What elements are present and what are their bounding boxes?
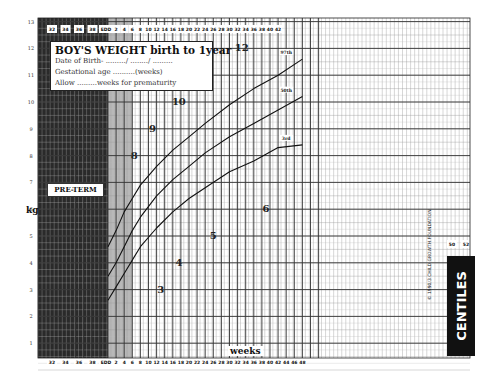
x-tick-label: 28 (218, 27, 224, 32)
x-tick-label: 40 (267, 27, 273, 32)
x-tick-label: 42 (275, 360, 281, 365)
x-tick-label: 2 (115, 360, 118, 365)
prematurity-allowance-field: Allow .........weeks for prematurity (55, 78, 208, 89)
y-tick-label: 9 (29, 126, 32, 132)
x-tick-label: 22 (194, 27, 200, 32)
x-tick-label: 40 (267, 360, 273, 365)
month-marker: 12 (235, 42, 249, 53)
centiles-label: CENTILES (454, 271, 469, 341)
x-tick-preterm: 32 (49, 360, 55, 365)
month-marker: 4 (175, 257, 182, 268)
x-tick-label: 34 (243, 27, 249, 32)
x-tick-label: 8 (139, 360, 142, 365)
chart-title: BOY'S WEIGHT birth to 1year (55, 44, 208, 56)
x-tick-label: 24 (202, 27, 208, 32)
x-tick-label: 36 (251, 27, 257, 32)
x-tick-label: 26 (210, 27, 216, 32)
x-tick-label: 38 (259, 27, 265, 32)
x-tick-label: 20 (186, 27, 192, 32)
y-tick-label: 2 (29, 313, 32, 319)
y-tick-label: 10 (28, 99, 34, 105)
preterm-label: PRE-TERM (47, 183, 104, 197)
x-tick-label: 24 (202, 360, 208, 365)
x-tick-label: 48 (299, 360, 305, 365)
x-tick-label: 10 (145, 360, 151, 365)
month-marker: 5 (210, 230, 217, 241)
x-tick-label: 46 (291, 360, 297, 365)
y-tick-label: 3 (29, 287, 32, 293)
chart-title-box: BOY'S WEIGHT birth to 1year Date of Birt… (50, 41, 213, 91)
x-tick-label: 18 (178, 27, 184, 32)
x-tick-label: 50 (449, 242, 455, 247)
x-tick-label: 36 (251, 360, 257, 365)
month-marker: 6 (262, 203, 269, 214)
y-tick-label: 12 (28, 45, 34, 51)
x-tick-label: 4 (123, 360, 126, 365)
x-tick-preterm: 32 (49, 27, 55, 32)
x-tick-label: 52 (463, 242, 469, 247)
x-tick-label: 12 (153, 27, 159, 32)
x-tick-label: 14 (162, 27, 168, 32)
gestational-age-field: Gestational age ..........(weeks) (55, 67, 208, 78)
x-tick-label: 4 (123, 27, 126, 32)
x-tick-label: 38 (259, 360, 265, 365)
centile-label: 50th (280, 88, 292, 93)
x-tick-label: 42 (275, 27, 281, 32)
x-tick-label: 16 (170, 27, 176, 32)
x-tick-preterm: 36 (76, 27, 82, 32)
y-tick-label: 5 (29, 233, 32, 239)
x-tick-label: 10 (145, 27, 151, 32)
y-tick-label: 8 (29, 153, 32, 159)
y-tick-label: 11 (28, 72, 34, 78)
x-tick-label: 28 (218, 360, 224, 365)
x-axis-label: weeks (228, 346, 263, 356)
x-tick-preterm: EDD (101, 27, 112, 32)
x-tick-label: 14 (162, 360, 168, 365)
x-tick-label: 30 (226, 27, 232, 32)
x-tick-preterm: 38 (89, 360, 95, 365)
x-tick-label: 8 (139, 27, 142, 32)
centiles-banner: CENTILES (447, 256, 475, 356)
month-marker: 8 (131, 150, 138, 161)
x-tick-label: 6 (131, 360, 134, 365)
centile-label: 3rd (282, 136, 292, 141)
month-marker: 9 (149, 123, 156, 134)
x-tick-label: 22 (194, 360, 200, 365)
x-tick-preterm: 34 (62, 27, 68, 32)
x-tick-label: 34 (243, 360, 249, 365)
y-tick-label: 13 (28, 19, 34, 25)
y-tick-label: 7 (29, 179, 32, 185)
x-tick-label: 16 (170, 360, 176, 365)
x-tick-label: 18 (178, 360, 184, 365)
y-tick-label: 1 (29, 340, 32, 346)
x-tick-label: 2 (115, 27, 118, 32)
x-tick-label: 12 (153, 360, 159, 365)
x-tick-label: 30 (226, 360, 232, 365)
x-tick-label: 26 (210, 360, 216, 365)
x-tick-label: 20 (186, 360, 192, 365)
x-tick-label: 32 (234, 27, 240, 32)
centile-label: 97th (280, 50, 292, 55)
x-tick-label: 32 (234, 360, 240, 365)
date-of-birth-field: Date of Birth- ........./ ......../ ....… (55, 56, 208, 67)
x-tick-label: 44 (283, 360, 289, 365)
x-tick-preterm: 36 (76, 360, 82, 365)
x-tick-preterm: EDD (101, 360, 112, 365)
x-tick-label: 6 (131, 27, 134, 32)
x-tick-preterm: 34 (62, 360, 68, 365)
x-tick-preterm: 38 (89, 27, 95, 32)
y-tick-label: 4 (29, 260, 32, 266)
copyright-text: © 1990/3 CHILD GROWTH FOUNDATION (427, 209, 432, 300)
y-axis-label: kg (26, 205, 39, 215)
month-marker: 3 (157, 284, 164, 295)
month-marker: 10 (172, 96, 186, 107)
